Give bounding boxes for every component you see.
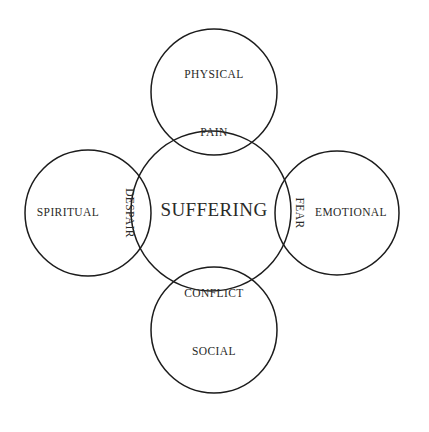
- label-pain: PAIN: [200, 126, 228, 138]
- suffering-venn-diagram: PHYSICAL SPIRITUAL EMOTIONAL SOCIAL SUFF…: [0, 0, 429, 432]
- label-social: SOCIAL: [192, 345, 236, 357]
- label-fear: FEAR: [294, 198, 306, 229]
- venn-diagram-canvas: PHYSICAL SPIRITUAL EMOTIONAL SOCIAL SUFF…: [0, 0, 429, 432]
- label-emotional: EMOTIONAL: [315, 206, 387, 218]
- label-conflict: CONFLICT: [184, 287, 243, 299]
- label-spiritual: SPIRITUAL: [37, 206, 99, 218]
- label-physical: PHYSICAL: [184, 68, 243, 80]
- label-despair: DESPAIR: [124, 188, 136, 238]
- label-suffering: SUFFERING: [160, 199, 267, 220]
